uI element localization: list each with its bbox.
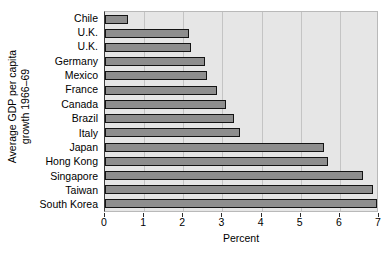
y-axis-title: Average GDP per capita growth 1966–69 [0,0,38,212]
x-axis-ticks: 01234567 [104,213,378,229]
bar-slot [105,26,377,40]
x-axis-tick-label: 5 [297,216,303,228]
bar-slot [105,140,377,154]
bar [105,100,226,109]
bar-slot [105,126,377,140]
y-axis-tick-label: Chile [36,11,102,25]
bar-slot [105,69,377,83]
bar-slot [105,55,377,69]
bar [105,185,373,194]
y-axis-tick-label: Italy [36,126,102,140]
y-axis-tick-label: Mexico [36,68,102,82]
y-axis-tick-label: U.K. [36,40,102,54]
bar [105,15,128,24]
bar [105,143,324,152]
bar-series [105,12,377,211]
bar [105,157,328,166]
bar [105,171,363,180]
y-axis-tick-label: Germany [36,54,102,68]
y-axis-tick-label: Singapore [36,169,102,183]
y-axis-tick-label: Hong Kong [36,155,102,169]
y-axis-tick-label: Canada [36,97,102,111]
bar-slot [105,12,377,26]
plot-area [104,11,378,212]
y-axis-title-line-2: growth 1966–69 [19,49,32,162]
bar-slot [105,183,377,197]
bar [105,114,234,123]
bar [105,86,217,95]
x-axis-tick-label: 1 [140,216,146,228]
bar [105,128,240,137]
bar-slot [105,197,377,211]
x-axis-tick-label: 0 [101,216,107,228]
bar-slot [105,40,377,54]
y-axis-tick-label: Japan [36,140,102,154]
bar-slot [105,97,377,111]
y-axis-tick-label: South Korea [36,198,102,212]
x-axis-title: Percent [104,232,378,244]
bar-slot [105,83,377,97]
bar [105,29,189,38]
bar-slot [105,168,377,182]
bar [105,71,207,80]
x-axis-tick-label: 6 [336,216,342,228]
bar-chart: Average GDP per capita growth 1966–69 Ch… [0,0,392,258]
x-axis-tick-label: 2 [179,216,185,228]
bar-slot [105,112,377,126]
bar [105,57,205,66]
y-axis-tick-label: Brazil [36,112,102,126]
bar [105,199,377,208]
y-axis-tick-labels: ChileU.K.U.K.GermanyMexicoFranceCanadaBr… [36,11,102,212]
y-axis-tick-label: U.K. [36,25,102,39]
x-axis-tick-label: 4 [258,216,264,228]
bar [105,43,191,52]
y-axis-title-line-1: Average GDP per capita [7,49,20,162]
bar-slot [105,154,377,168]
y-axis-tick-label: Taiwan [36,183,102,197]
y-axis-tick-label: France [36,83,102,97]
x-axis-tick-label: 7 [375,216,381,228]
x-axis-tick-label: 3 [219,216,225,228]
